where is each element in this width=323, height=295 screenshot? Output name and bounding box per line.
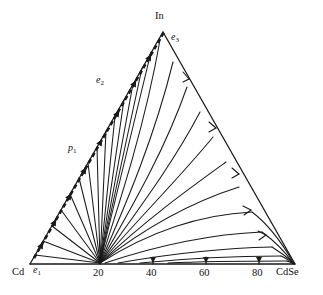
diagram-canvas bbox=[0, 0, 323, 295]
point-label-e2: e2 bbox=[96, 75, 104, 87]
axis-tick-label-80: 80 bbox=[252, 268, 263, 279]
axis-tick-label-20: 20 bbox=[93, 268, 104, 279]
ternary-phase-diagram: In e3 e2 p1 Cd e1 CdSe 20 40 60 80 bbox=[0, 0, 323, 295]
point-label-p1-subscript: 1 bbox=[73, 147, 77, 155]
point-label-e3-subscript: 3 bbox=[175, 36, 179, 44]
axis-tick-label-40: 40 bbox=[146, 268, 157, 279]
point-label-e3: e3 bbox=[171, 32, 179, 44]
axis-tick-label-60: 60 bbox=[199, 268, 210, 279]
vertex-label-cd: Cd bbox=[12, 267, 24, 278]
point-label-e1-subscript: 1 bbox=[37, 269, 41, 277]
field-lines-cdse-curves bbox=[100, 212, 294, 264]
base-tick-arrowheads bbox=[150, 257, 262, 263]
point-label-e2-subscript: 2 bbox=[100, 79, 104, 87]
point-label-p1: p1 bbox=[68, 143, 77, 155]
right-edge-in-cdse bbox=[163, 32, 295, 264]
point-label-e1: e1 bbox=[33, 265, 41, 277]
vertex-label-cdse: CdSe bbox=[276, 267, 299, 278]
vertex-label-in: In bbox=[155, 11, 164, 22]
